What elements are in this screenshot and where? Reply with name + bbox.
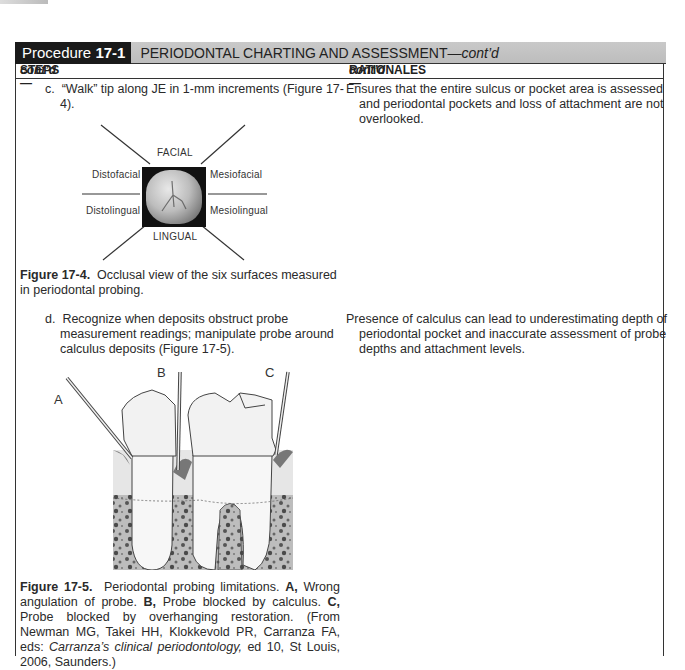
caption-b-label: B,: [144, 595, 157, 609]
step-letter: d.: [45, 312, 55, 326]
procedure-title-main: PERIODONTAL CHARTING AND ASSESSMENT—: [140, 45, 461, 61]
step-letter: c.: [45, 82, 55, 96]
rationale-c: Ensures that the entire sulcus or pocket…: [346, 82, 669, 127]
procedure-header: Procedure 17-1 PERIODONTAL CHARTING AND …: [15, 42, 666, 64]
figure-17-5-illustration: A B C: [40, 360, 340, 570]
step-text: “Walk” tip along JE in 1-mm increments (…: [60, 82, 344, 111]
procedure-prefix: Procedure: [22, 44, 95, 61]
label-facial: FACIAL: [157, 147, 193, 158]
step-d: d. Recognize when deposits obstruct prob…: [45, 312, 345, 357]
procedure-title: PERIODONTAL CHARTING AND ASSESSMENT—cont…: [131, 42, 666, 63]
page-edge-artifact: [0, 0, 48, 4]
probing-limitations-drawing: [40, 360, 340, 570]
occlusal-tooth-photo: [142, 167, 206, 227]
rationale-d: Presence of calculus can lead to underes…: [346, 312, 669, 357]
label-distolingual: Distolingual: [86, 205, 140, 216]
label-c: C: [265, 365, 274, 380]
step-c: c. “Walk” tip along JE in 1-mm increment…: [45, 82, 345, 112]
tooth-fissures: [142, 167, 206, 227]
label-mesiolingual: Mesiolingual: [210, 205, 268, 216]
step-text: Recognize when deposits obstruct probe m…: [60, 312, 334, 356]
steps-column-header: STEPS—cont’d: [20, 64, 56, 77]
figure-17-4-caption: Figure 17-4. Occlusal view of the six su…: [20, 268, 340, 298]
label-lingual: LINGUAL: [153, 231, 197, 242]
procedure-number-label: Procedure 17-1: [15, 42, 131, 64]
figure-label: Figure 17-4.: [20, 268, 90, 282]
figure-17-4-diagram: FACIAL Distofacial Mesiofacial Distoling…: [60, 122, 300, 262]
figure-label: Figure 17-5.: [20, 580, 92, 594]
label-b: B: [157, 365, 166, 380]
procedure-title-cont: cont’d: [461, 45, 498, 61]
caption-intro: Periodontal probing limitations.: [92, 580, 285, 594]
caption-a-label: A,: [285, 580, 298, 594]
caption-c-label: C,: [328, 595, 341, 609]
caption-b-text: Probe blocked by calculus.: [156, 595, 328, 609]
figure-17-5-caption: Figure 17-5. Periodontal probing limitat…: [20, 580, 340, 670]
rationales-column-header: RATIONALES—cont’d: [349, 64, 385, 77]
procedure-number: 17-1: [95, 44, 125, 61]
column-headers: STEPS—cont’d RATIONALES—cont’d: [16, 64, 663, 79]
caption-book-title: Carranza’s clinical periodontology,: [49, 640, 242, 654]
label-mesiofacial: Mesiofacial: [210, 169, 262, 180]
label-distofacial: Distofacial: [92, 169, 140, 180]
label-a: A: [54, 392, 63, 407]
